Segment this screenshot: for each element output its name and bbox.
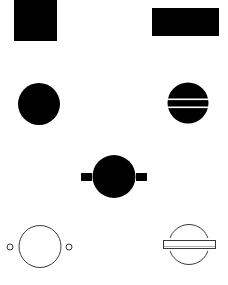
outline-circle-shape — [19, 226, 61, 268]
tabbed-circle-group — [81, 155, 147, 198]
tabbed-circle-shape — [93, 155, 136, 198]
right-tab-shape — [136, 173, 147, 181]
right-small-circle-shape — [66, 244, 72, 250]
diagram-canvas — [0, 0, 228, 285]
crossbar-circle-group — [163, 225, 216, 265]
striped-circle-shape — [168, 83, 209, 124]
filled-wide-rectangle-shape — [152, 8, 219, 36]
filled-circle-shape — [18, 83, 60, 125]
circle-stripe-upper — [167, 99, 210, 101]
shapes-drawing — [0, 0, 228, 285]
crossbar-shape — [164, 241, 216, 249]
circle-stripe-lower — [167, 107, 210, 109]
outline-circle-dots-group — [7, 226, 72, 268]
left-small-circle-shape — [7, 244, 13, 250]
left-tab-shape — [81, 173, 92, 181]
striped-circle-group — [167, 83, 210, 124]
filled-square-shape — [14, 0, 57, 41]
